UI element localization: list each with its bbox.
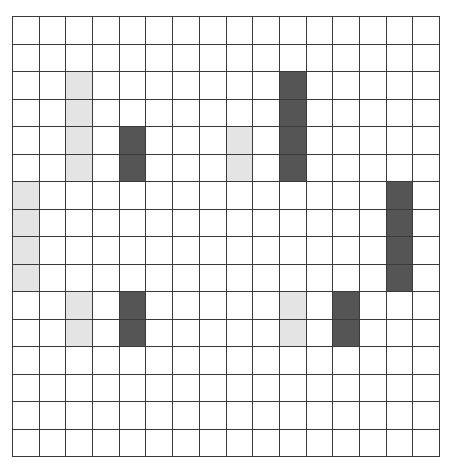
grid-cell xyxy=(173,292,200,320)
grid-cell xyxy=(120,17,147,45)
grid-cell xyxy=(227,237,254,265)
grid-cell-light xyxy=(13,237,40,265)
grid-cell xyxy=(146,155,173,183)
grid-cell xyxy=(146,237,173,265)
grid-cell xyxy=(307,402,334,430)
grid-cell xyxy=(253,127,280,155)
grid-cell xyxy=(280,402,307,430)
grid-cell xyxy=(333,100,360,128)
grid-cell xyxy=(120,430,147,458)
grid-cell xyxy=(200,210,227,238)
grid-cell xyxy=(307,375,334,403)
grid-cell xyxy=(333,430,360,458)
grid-cell xyxy=(120,45,147,73)
grid-cell-light xyxy=(66,72,93,100)
grid-cell xyxy=(200,320,227,348)
grid-cell xyxy=(413,45,440,73)
grid-cell xyxy=(333,237,360,265)
grid-cell xyxy=(413,72,440,100)
grid-cell xyxy=(227,210,254,238)
grid-cell xyxy=(280,45,307,73)
grid-cell-light xyxy=(13,182,40,210)
grid-cell xyxy=(253,45,280,73)
grid-cell xyxy=(413,265,440,293)
grid-cell xyxy=(307,210,334,238)
grid-cell xyxy=(307,17,334,45)
grid-cell xyxy=(333,17,360,45)
grid-cell xyxy=(13,375,40,403)
grid-cell xyxy=(387,17,414,45)
grid-cell-dark xyxy=(387,237,414,265)
grid-cell xyxy=(360,182,387,210)
grid-cell-light xyxy=(66,292,93,320)
grid-cell xyxy=(173,127,200,155)
grid-cell xyxy=(40,430,67,458)
grid-cell xyxy=(387,375,414,403)
grid-cell xyxy=(13,320,40,348)
grid-cell xyxy=(66,430,93,458)
grid-cell xyxy=(413,17,440,45)
grid-cell xyxy=(307,292,334,320)
grid-cell xyxy=(40,72,67,100)
grid-cell xyxy=(146,320,173,348)
grid-cell xyxy=(333,72,360,100)
grid-cell-dark xyxy=(333,320,360,348)
grid-cell xyxy=(120,210,147,238)
grid-cell xyxy=(93,237,120,265)
grid-cell xyxy=(360,347,387,375)
grid-cell xyxy=(173,347,200,375)
grid-cell-light xyxy=(280,292,307,320)
grid-cell xyxy=(66,402,93,430)
grid-cell-light xyxy=(227,155,254,183)
grid-cell xyxy=(360,265,387,293)
grid-cell xyxy=(200,127,227,155)
grid-cell xyxy=(227,182,254,210)
grid-cell xyxy=(66,347,93,375)
grid-cell xyxy=(280,430,307,458)
grid-cell xyxy=(360,430,387,458)
grid-cell xyxy=(360,210,387,238)
grid-cell xyxy=(387,72,414,100)
grid-cell xyxy=(66,375,93,403)
grid-cell xyxy=(227,17,254,45)
grid-cell xyxy=(227,292,254,320)
grid-cell xyxy=(200,375,227,403)
grid-cell xyxy=(307,72,334,100)
grid-cell xyxy=(93,45,120,73)
grid-cell xyxy=(173,237,200,265)
grid-cell xyxy=(120,182,147,210)
grid-cell xyxy=(413,402,440,430)
grid-cell-dark xyxy=(280,100,307,128)
grid-cell xyxy=(40,375,67,403)
grid-cell xyxy=(120,347,147,375)
grid-cell xyxy=(13,72,40,100)
grid-cell xyxy=(253,402,280,430)
grid-cell xyxy=(200,347,227,375)
grid-cell xyxy=(146,72,173,100)
grid-cell xyxy=(173,320,200,348)
grid-cell xyxy=(93,430,120,458)
grid-cell xyxy=(13,127,40,155)
grid-cell-light xyxy=(280,320,307,348)
grid-cell xyxy=(413,430,440,458)
grid-cell-dark xyxy=(280,155,307,183)
grid-cell xyxy=(227,100,254,128)
grid-cell xyxy=(387,347,414,375)
grid-cell xyxy=(413,155,440,183)
grid-cell xyxy=(253,292,280,320)
grid-cell xyxy=(253,237,280,265)
grid-cell xyxy=(360,375,387,403)
grid-cell xyxy=(387,45,414,73)
grid-cell xyxy=(253,155,280,183)
grid-cell xyxy=(200,237,227,265)
grid-cell xyxy=(333,182,360,210)
grid-cell xyxy=(120,402,147,430)
grid-cell xyxy=(387,430,414,458)
grid-cell xyxy=(93,100,120,128)
grid-cell xyxy=(200,72,227,100)
grid-cell-dark xyxy=(280,127,307,155)
grid-cell xyxy=(227,72,254,100)
grid-cell xyxy=(253,430,280,458)
grid-cell xyxy=(93,182,120,210)
grid-cell xyxy=(307,127,334,155)
